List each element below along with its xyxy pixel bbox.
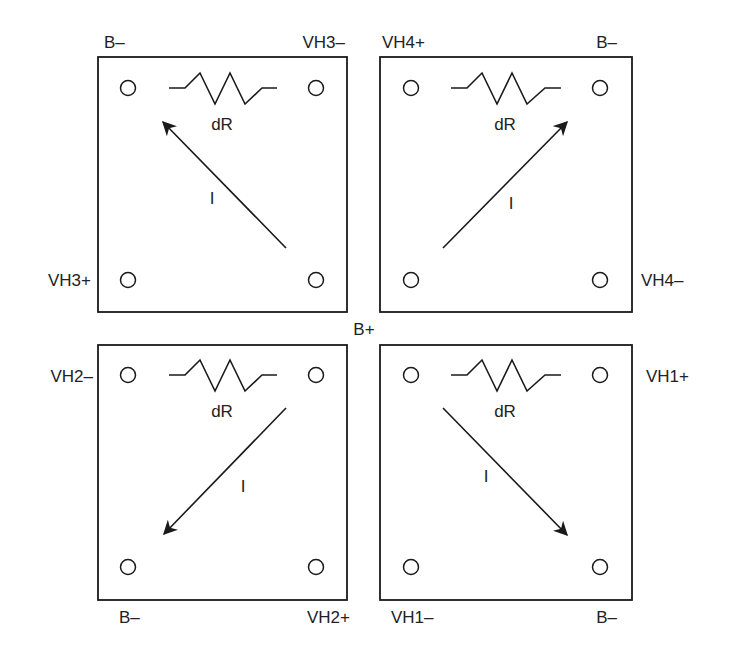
contact-pad: [593, 81, 608, 96]
current-label: I: [210, 189, 215, 208]
current-arrow-icon: [443, 122, 567, 248]
contact-pad: [309, 560, 324, 575]
contact-pad: [593, 368, 608, 383]
terminal-label: VH4–: [641, 271, 684, 290]
contact-pad: [593, 560, 608, 575]
terminal-label: VH3–: [302, 33, 345, 52]
resistor-icon: [451, 73, 561, 104]
center-terminal-label: B+: [353, 320, 374, 339]
terminal-label: B–: [104, 33, 125, 52]
contact-pad: [309, 273, 324, 288]
hall-sensor-quadrant-diagram: dR I dR I dR I: [0, 0, 729, 658]
terminal-label: VH2+: [307, 608, 350, 627]
contact-pad: [404, 273, 419, 288]
current-arrow-icon: [443, 408, 567, 535]
resistor-label: dR: [494, 402, 516, 421]
terminal-label: VH4+: [382, 33, 425, 52]
terminal-label: B–: [119, 608, 140, 627]
contact-pad: [121, 368, 136, 383]
contact-pad: [309, 368, 324, 383]
terminal-label: B–: [596, 608, 617, 627]
contact-pad: [121, 560, 136, 575]
terminal-label: VH1+: [646, 367, 689, 386]
terminal-label: VH2–: [50, 367, 93, 386]
resistor-icon: [169, 360, 277, 391]
terminal-label: VH1–: [391, 608, 434, 627]
contact-pad: [121, 273, 136, 288]
current-label: I: [509, 194, 514, 213]
current-label: I: [241, 477, 246, 496]
terminal-label: VH3+: [48, 271, 91, 290]
contact-pad: [309, 81, 324, 96]
current-arrow-icon: [164, 408, 286, 534]
resistor-label: dR: [211, 115, 233, 134]
resistor-label: dR: [494, 115, 516, 134]
quadrant-top-left: dR I: [98, 57, 347, 312]
resistor-icon: [451, 360, 561, 391]
plate-outline: [98, 57, 347, 312]
quadrant-bottom-left: dR I: [98, 345, 347, 600]
contact-pad: [593, 273, 608, 288]
contact-pad: [404, 560, 419, 575]
terminal-label: B–: [596, 33, 617, 52]
quadrant-top-right: dR I: [380, 57, 632, 312]
contact-pad: [404, 368, 419, 383]
current-arrow-icon: [163, 122, 286, 248]
contact-pad: [121, 81, 136, 96]
resistor-icon: [169, 73, 277, 104]
resistor-label: dR: [211, 402, 233, 421]
current-label: I: [484, 467, 489, 486]
diagram-canvas: dR I dR I dR I: [0, 0, 729, 658]
quadrant-bottom-right: dR I: [380, 345, 632, 600]
contact-pad: [404, 81, 419, 96]
